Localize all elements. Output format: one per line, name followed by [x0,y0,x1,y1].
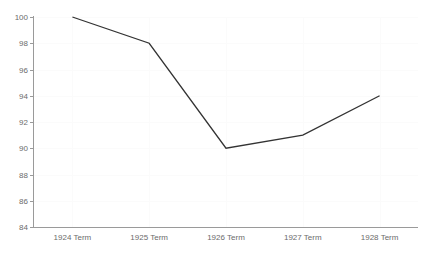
line-chart: 8486889092949698100 1924 Term1925 Term19… [0,0,426,256]
series-line-group [0,0,426,256]
series-line [72,17,379,148]
x-axis-tick-label: 1928 Term [361,233,399,242]
x-axis-tick-label: 1925 Term [130,233,168,242]
x-axis-tick-label: 1927 Term [284,233,322,242]
x-axis-tick-label: 1924 Term [54,233,92,242]
x-axis-tick-label: 1926 Term [207,233,245,242]
